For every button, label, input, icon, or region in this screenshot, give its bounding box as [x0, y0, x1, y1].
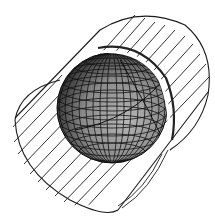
cylindrical-projection-figure: [0, 0, 215, 224]
globe: [57, 53, 175, 165]
